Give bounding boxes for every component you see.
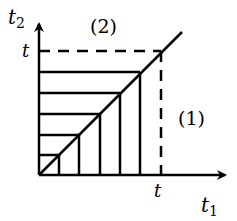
- region-1-label: (1): [178, 107, 205, 129]
- x-tick-label: t: [154, 180, 162, 201]
- integration-region-diagram: t2 t (2) (1) t t1: [0, 0, 237, 221]
- x-axis-label: t1: [201, 193, 218, 219]
- y-tick-label: t: [22, 40, 30, 61]
- horizontal-strips: [39, 72, 140, 155]
- region-2-label: (2): [90, 15, 117, 37]
- y-axis-label: t2: [8, 5, 25, 31]
